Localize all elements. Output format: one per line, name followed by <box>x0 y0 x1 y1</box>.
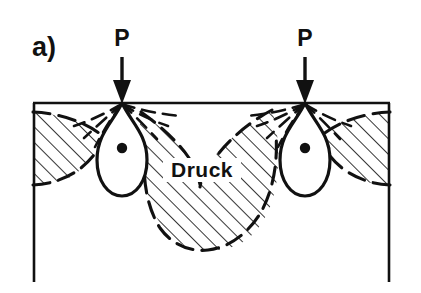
load-arrow-left <box>113 57 131 104</box>
pressure-bulb-left <box>97 103 147 196</box>
load-arrows <box>113 57 314 104</box>
zone-label-group: Druck <box>163 158 241 182</box>
pressure-bulb-diagram: a) P P Druck <box>0 0 421 293</box>
pressure-bulb-right <box>280 103 330 196</box>
load-label-left: P <box>114 25 129 51</box>
panel-label: a) <box>32 32 56 62</box>
load-label-right: P <box>297 25 312 51</box>
load-arrow-right <box>296 57 314 104</box>
figure-root: a) P P Druck <box>0 0 421 293</box>
arrow-head-left <box>113 80 131 104</box>
bulb-center-dot-left <box>117 143 127 153</box>
zone-label-druck: Druck <box>171 158 233 181</box>
central-compression-lobe <box>130 100 290 265</box>
arrow-head-right <box>296 80 314 104</box>
bulb-center-dot-right <box>300 143 310 153</box>
